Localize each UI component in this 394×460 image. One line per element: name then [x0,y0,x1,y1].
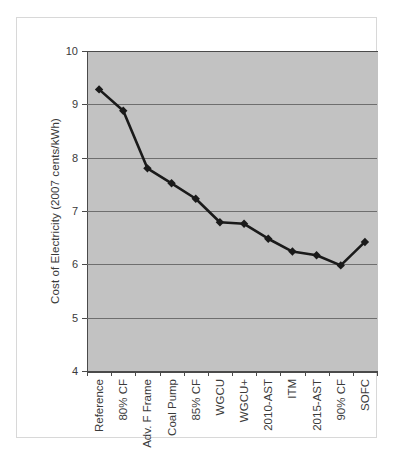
x-axis-tick [329,371,330,376]
x-axis-tick-label: 80% CF [117,379,129,421]
x-axis-tick-label: SOFC [359,379,371,411]
y-axis-tick-label: 8 [17,152,78,164]
x-axis-tick-label: 2015-AST [311,379,323,431]
x-axis-tick [135,371,136,376]
data-series [87,51,377,371]
y-axis-tick-label: 10 [17,45,78,57]
chart-frame: Cost of Electricity (2007 cents/kWh) 109… [16,17,377,438]
x-axis-tick-label: 85% CF [190,379,202,421]
x-axis-tick-label: 90% CF [335,379,347,421]
x-axis-tick-label: WGCU [214,379,226,415]
x-axis-tick-label: Adv. F Frame [141,379,153,448]
x-axis-tick [232,371,233,376]
x-axis-tick-label: 2010-AST [262,379,274,431]
x-axis-tick [111,371,112,376]
y-axis-tick-label: 6 [17,258,78,270]
series-line [99,89,365,265]
x-axis-tick [160,371,161,376]
x-axis-tick [377,371,378,376]
x-axis-tick-label: Coal Pump [166,379,178,436]
x-axis-tick [280,371,281,376]
series-markers [95,85,369,269]
y-axis-tick-label: 5 [17,312,78,324]
x-axis-tick-label: Reference [93,379,105,432]
x-axis-tick-label: WGCU+ [238,379,250,422]
x-axis-tick-label: ITM [286,379,298,399]
data-point-marker [312,251,320,259]
x-axis-tick [256,371,257,376]
x-axis-tick [87,371,88,376]
x-axis-tick [184,371,185,376]
y-axis-tick-label: 4 [17,365,78,377]
y-axis-tick-label: 9 [17,98,78,110]
y-axis-tick-label: 7 [17,205,78,217]
x-axis-tick [208,371,209,376]
x-axis-tick [353,371,354,376]
x-axis-tick [305,371,306,376]
